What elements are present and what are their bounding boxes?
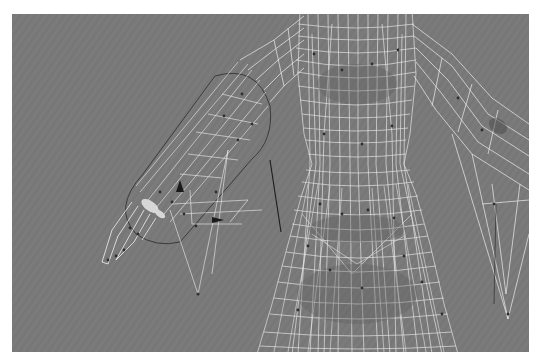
- 3d-viewport[interactable]: 3D wireframe viewport: [12, 14, 529, 352]
- wireframe-scene[interactable]: [12, 14, 529, 352]
